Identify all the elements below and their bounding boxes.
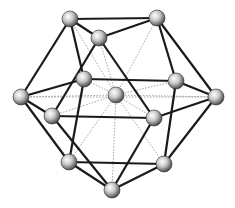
atom-MLF	[44, 108, 60, 124]
bond-TR-MRB	[157, 18, 176, 81]
dashed-bond-C-MRB	[116, 81, 176, 95]
bond-MLB-MRB	[84, 79, 176, 81]
bond-MLF-MRF	[52, 116, 154, 118]
dashed-bonds	[21, 18, 216, 190]
atom-BR	[156, 156, 172, 172]
dashed-bond-C-B	[112, 95, 116, 190]
atom-MRF	[146, 110, 162, 126]
atom-BL	[61, 154, 77, 170]
bond-TL-TR	[70, 18, 157, 19]
bond-MLB-BL	[69, 79, 84, 162]
atom-L	[13, 89, 29, 105]
atom-TL	[62, 11, 78, 27]
atom-R	[208, 89, 224, 105]
atom-MLB	[76, 71, 92, 87]
cuboctahedron-diagram	[0, 0, 235, 208]
bond-UM-MRF	[99, 38, 154, 118]
atom-UM	[91, 30, 107, 46]
bond-BL-BR	[69, 162, 164, 164]
dashed-bond-C-L	[21, 95, 116, 97]
atom-B	[104, 182, 120, 198]
dashed-bond-C-BR	[116, 95, 164, 164]
atom-TR	[149, 10, 165, 26]
bond-UM-TR	[99, 18, 157, 38]
dashed-bond-C-TL	[70, 19, 116, 95]
dashed-bond-C-UM	[99, 38, 116, 95]
atom-C	[108, 87, 124, 103]
atom-MRB	[168, 73, 184, 89]
solid-bonds	[21, 18, 216, 190]
